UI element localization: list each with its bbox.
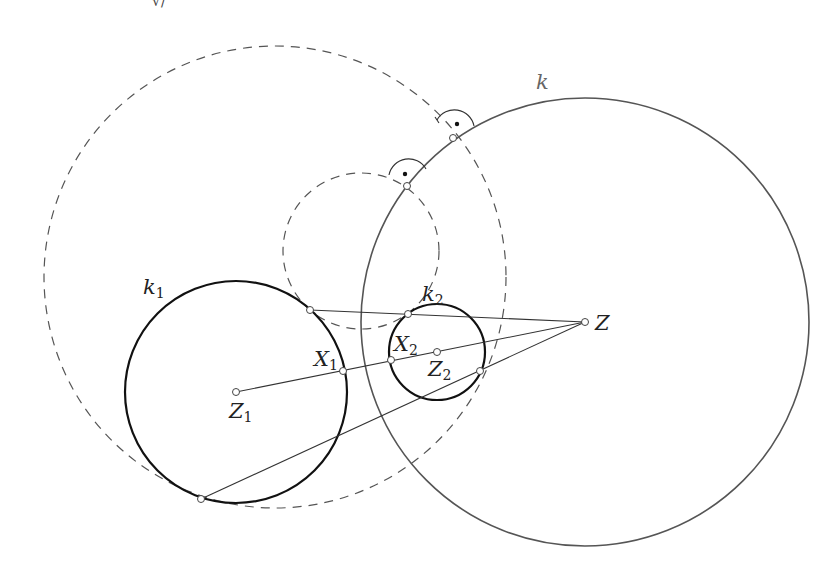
label-x2: X2	[392, 332, 418, 358]
points	[198, 135, 589, 503]
label-z1: Z1	[228, 399, 253, 425]
label-z2: Z2	[427, 357, 452, 383]
line-tangent-upper	[310, 310, 585, 322]
point-x1	[340, 368, 347, 375]
point-z1	[233, 389, 240, 396]
line-tangent-lower	[201, 322, 585, 499]
right-angle-marker-1	[435, 110, 474, 126]
label-k: k	[536, 70, 549, 94]
right-angle-marker-2	[389, 159, 426, 176]
dashed-circle-large	[44, 46, 506, 508]
point-p1	[450, 135, 457, 142]
label-x1: X1	[312, 347, 338, 373]
point-t2	[405, 311, 412, 318]
geometry-diagram: √/ k k1 k2 Z Z1 Z2 X1 X2	[0, 0, 833, 579]
label-k2: k2	[422, 282, 444, 308]
point-z	[582, 319, 589, 326]
point-t3	[198, 496, 205, 503]
label-k1: k1	[143, 275, 165, 301]
label-z: Z	[594, 311, 610, 335]
point-p2	[404, 183, 411, 190]
point-t4	[477, 368, 484, 375]
point-z2	[434, 349, 441, 356]
point-x2	[388, 357, 395, 364]
top-text-fragment: √/	[152, 0, 166, 9]
point-t1	[307, 307, 314, 314]
